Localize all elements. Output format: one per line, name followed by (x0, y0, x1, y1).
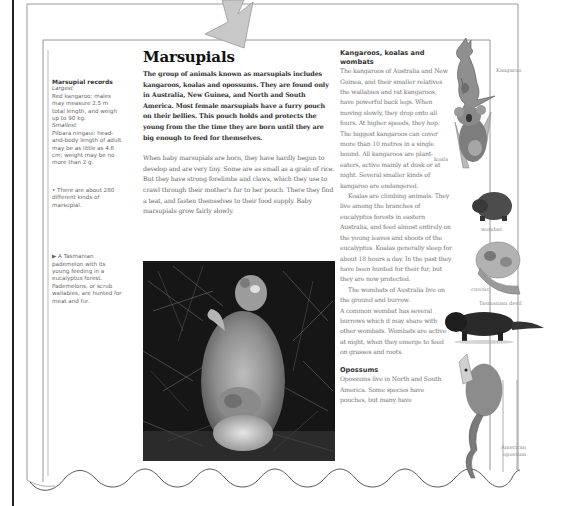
wombat-illustration (472, 190, 512, 222)
cuscus-label: cuscus (471, 286, 489, 293)
intro-paragraph: The group of animals known as marsupials… (143, 69, 335, 143)
tasmanian-devil-illustration (444, 306, 544, 346)
sidebar-facts: Marsupial records Largest Red kangaroo: … (52, 78, 122, 305)
koala-illustration (453, 102, 493, 170)
american-opossum-label-2: opossum (503, 451, 526, 458)
american-opossum-illustration (457, 350, 503, 480)
main-article: Marsupials The group of animals known as… (143, 47, 335, 217)
paragraph-kangaroos: The kangaroos of Australia and New Guine… (340, 66, 452, 191)
american-opossum-label-1: American (501, 444, 526, 451)
page-title: Marsupials (143, 47, 335, 67)
smallest-label: Smallest (52, 122, 122, 129)
heading-opossums: Opossums (340, 366, 452, 375)
largest-text: Red kangaroo: males may measure 2.5 m to… (52, 93, 122, 123)
paragraph-wombats: The wombats of Australia live on the gro… (340, 285, 452, 306)
photo-caption: ▶ A Tasmanian pademelon with its young f… (52, 253, 122, 305)
records-heading: Marsupial records (52, 78, 122, 85)
right-column: Kangaroos, koalas and wombats The kangar… (340, 49, 452, 405)
kangaroo-label: Kangaroo (496, 67, 521, 74)
paragraph-koalas: Koalas are climbing animals. They live a… (340, 191, 452, 285)
koala-label: koala (434, 156, 448, 163)
fact-note: • There are about 280 different kinds of… (52, 187, 122, 209)
body-paragraph: When baby marsupials are born, they have… (143, 153, 335, 217)
largest-label: Largest (52, 85, 122, 92)
paragraph-common-wombat: A common wombat has several burrows whic… (340, 306, 452, 358)
encyclopedia-page: Marsupial records Largest Red kangaroo: … (44, 40, 490, 480)
smallest-text: Pilbara ningaui: head-and-body length of… (52, 130, 122, 167)
pademelon-photo (143, 261, 335, 461)
heading-kangaroos: Kangaroos, koalas and wombats (340, 49, 452, 66)
wombat-label: wombat (481, 226, 502, 233)
paragraph-opossums: Opossums live in North and South America… (340, 374, 452, 405)
